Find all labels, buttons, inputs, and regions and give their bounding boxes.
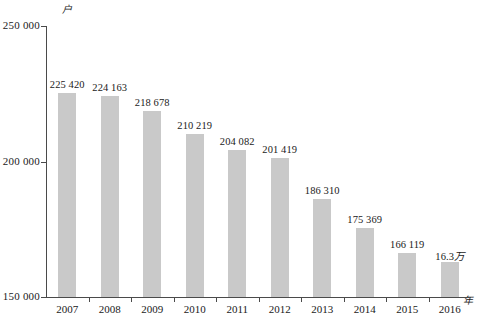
bar	[58, 93, 76, 297]
bar	[143, 111, 161, 297]
x-axis-tick	[429, 297, 430, 302]
bar-value-label: 210 219	[165, 120, 225, 131]
x-axis-tick	[386, 297, 387, 302]
bar	[228, 150, 246, 297]
bar-value-label: 201 419	[250, 144, 310, 155]
bar-value-label: 224 163	[80, 82, 140, 93]
y-axis-tick-label-text: 250 000	[3, 19, 40, 31]
x-axis-tick-label: 2016	[425, 303, 475, 315]
x-axis-tick	[174, 297, 175, 302]
y-axis-tick	[41, 162, 47, 163]
x-axis-tick	[131, 297, 132, 302]
bar	[398, 253, 416, 297]
x-axis-tick	[301, 297, 302, 302]
x-axis-tick	[259, 297, 260, 302]
bar-value-label: 186 310	[292, 185, 352, 196]
y-axis-unit-label: 户	[62, 1, 72, 16]
y-axis-tick	[41, 26, 47, 27]
bar-chart: 户 年 150 000200 000250 000 20072008200920…	[0, 0, 483, 332]
bar-value-label: 16.3万	[420, 248, 480, 263]
x-axis-tick	[89, 297, 90, 302]
bar	[441, 262, 459, 297]
bar-value-label: 218 678	[122, 97, 182, 108]
x-axis-tick	[216, 297, 217, 302]
bar	[271, 158, 289, 297]
bar	[356, 228, 374, 297]
bar	[186, 134, 204, 297]
x-axis-tick	[344, 297, 345, 302]
bar	[101, 96, 119, 297]
bar	[313, 199, 331, 297]
y-axis-tick	[41, 297, 47, 298]
y-axis-tick-label-text: 150 000	[3, 290, 40, 302]
y-axis-tick-label-text: 200 000	[3, 155, 40, 167]
bar-value-label: 175 369	[335, 214, 395, 225]
